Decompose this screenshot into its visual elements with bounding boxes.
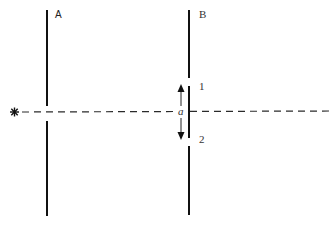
screen-a-label: A (55, 9, 62, 20)
optical-axis (22, 111, 331, 112)
double-slit-diagram: A B 1 2 a (0, 0, 331, 231)
light-source-star-icon (10, 108, 19, 117)
slit-2-label: 2 (199, 133, 205, 145)
screen-b-label: B (199, 8, 206, 20)
separation-label: a (178, 105, 184, 117)
slit-1-label: 1 (199, 80, 205, 92)
